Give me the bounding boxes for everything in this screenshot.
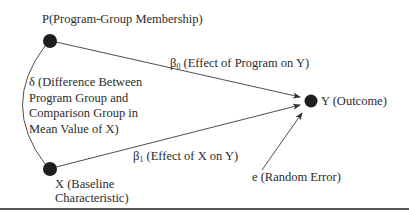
node-x-label-line2: Characteristic) [55,191,129,205]
node-x [43,162,57,176]
delta-line3: Comparison Group in [29,106,142,122]
delta-line2: Program Group and [29,91,142,107]
node-x-label-line1: X (Baseline [55,177,129,191]
node-x-label: X (Baseline Characteristic) [55,177,129,205]
bottom-rule [0,208,409,210]
beta0-text: (Effect of Program on Y) [180,56,309,70]
edge-beta1-label: β1 (Effect of X on Y) [133,149,238,167]
beta1-text: (Effect of X on Y) [143,149,238,163]
delta-line4: Mean Value of X) [29,122,142,138]
edge-e-to-y [262,113,302,170]
node-y-label: Y (Outcome) [321,94,387,108]
node-p-label: P(Program-Group Membership) [42,12,203,26]
delta-line1: δ (Difference Between [29,75,142,91]
node-p [43,34,57,48]
edge-delta-label: δ (Difference Between Program Group and … [29,75,142,137]
node-e-label: e (Random Error) [252,170,341,184]
node-y [305,95,318,108]
edge-beta0-label: β0 (Effect of Program on Y) [170,56,309,74]
